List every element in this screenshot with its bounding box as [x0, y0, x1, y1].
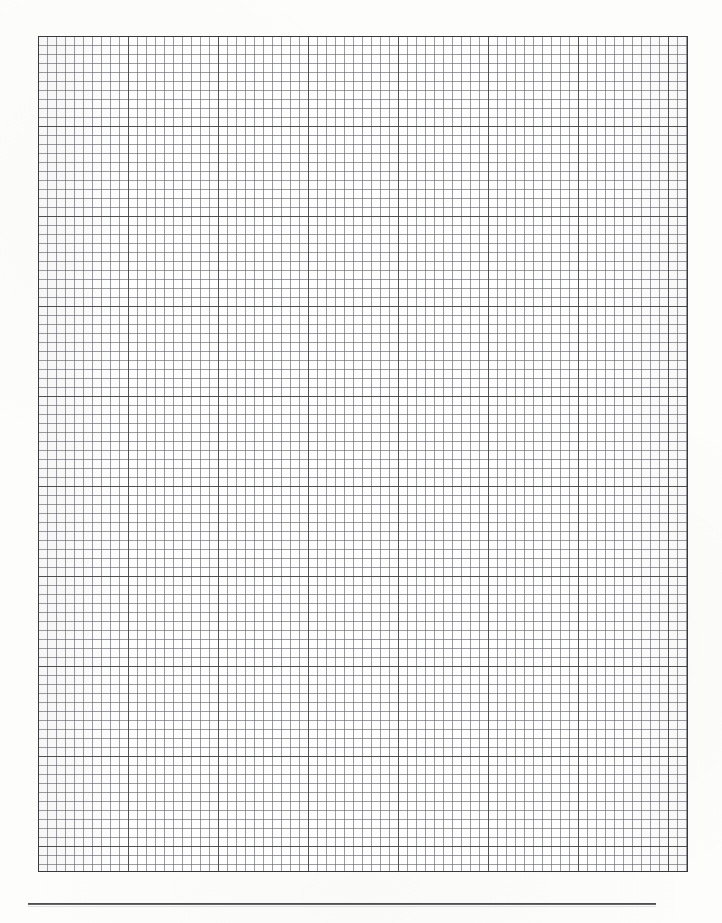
footer-horizontal-rule-shadow [28, 906, 656, 907]
page-sheet [0, 0, 722, 923]
footer-horizontal-rule [28, 903, 656, 905]
graph-paper-grid [38, 36, 688, 872]
